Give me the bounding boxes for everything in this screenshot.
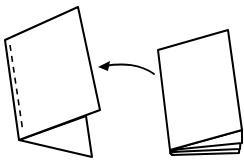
booklet-front-cover [158, 30, 242, 150]
folding-diagram [0, 0, 244, 165]
transform-arrow [98, 61, 154, 74]
arrow-shaft [104, 65, 154, 74]
folded-card [5, 7, 100, 157]
arrow-head-icon [98, 61, 110, 71]
stacked-booklet [158, 30, 242, 155]
